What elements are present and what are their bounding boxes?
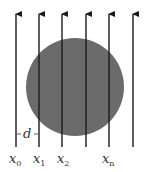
- spacing-label-d: d: [23, 126, 31, 141]
- label-x0: x0: [9, 151, 21, 168]
- ray-labels: x0 x1 x2 xn: [9, 151, 115, 168]
- label-xn: xn: [102, 151, 115, 168]
- ray-diagram: d x0 x1 x2 xn: [0, 0, 147, 172]
- label-x2: x2: [57, 151, 69, 168]
- label-x1: x1: [33, 151, 45, 168]
